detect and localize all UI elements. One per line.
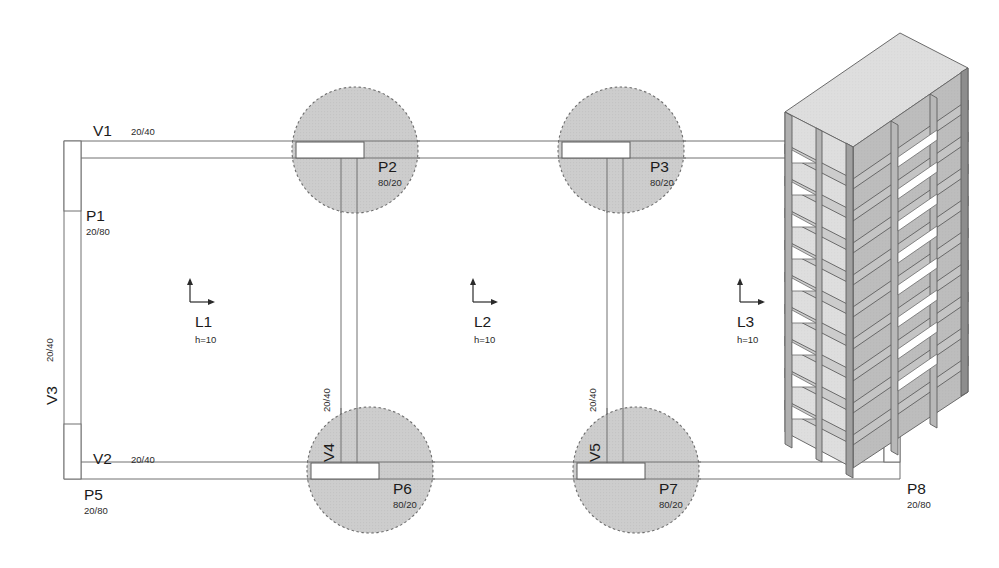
label-P7-dim: 80/20 — [659, 499, 683, 510]
label-P8: P8 — [907, 480, 926, 497]
label-V4-dim: 20/40 — [321, 388, 332, 412]
drawing-canvas: V1 20/40 P1 20/80 P2 80/20 P3 80/20 L1 h… — [0, 0, 999, 568]
label-P7: P7 — [659, 480, 678, 497]
label-L3-thickness: h=10 — [737, 334, 758, 345]
label-P5-dim: 20/80 — [84, 505, 108, 516]
label-P1: P1 — [86, 207, 105, 224]
label-V1: V1 — [93, 122, 112, 139]
label-P6: P6 — [393, 480, 412, 497]
label-V5-dim: 20/40 — [587, 388, 598, 412]
label-P3-dim: 80/20 — [650, 177, 674, 188]
label-P5: P5 — [84, 486, 103, 503]
label-V4: V4 — [320, 443, 337, 462]
label-P3: P3 — [650, 158, 669, 175]
label-V5: V5 — [586, 443, 603, 462]
label-P1-dim: 20/80 — [86, 226, 110, 237]
column-P2 — [296, 142, 364, 158]
column-P3 — [562, 142, 630, 158]
label-V1-dim: 20/40 — [131, 126, 155, 137]
structural-plan-svg: V1 20/40 P1 20/80 P2 80/20 P3 80/20 L1 h… — [0, 0, 999, 568]
label-P8-dim: 20/80 — [907, 499, 931, 510]
label-L2-thickness: h=10 — [474, 334, 495, 345]
label-L3: L3 — [737, 313, 754, 330]
label-L1: L1 — [195, 313, 212, 330]
label-V2: V2 — [93, 450, 112, 467]
label-P2: P2 — [378, 158, 397, 175]
label-P2-dim: 80/20 — [378, 177, 402, 188]
label-L1-thickness: h=10 — [195, 334, 216, 345]
label-V2-dim: 20/40 — [131, 454, 155, 465]
label-P6-dim: 80/20 — [393, 499, 417, 510]
column-P5 — [64, 424, 81, 479]
label-V3-dim: 20/40 — [44, 338, 55, 362]
column-P7 — [577, 463, 645, 479]
column-P6 — [311, 463, 379, 479]
label-V3: V3 — [43, 386, 60, 405]
column-P1 — [64, 141, 81, 211]
label-L2: L2 — [474, 313, 491, 330]
